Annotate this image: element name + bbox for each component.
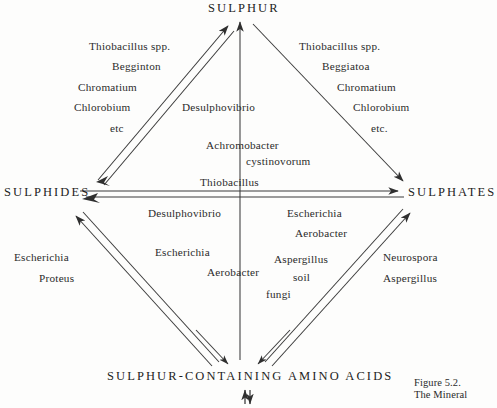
organism-label: Aerobacter (295, 227, 347, 239)
node-label-sulphides: SULPHIDES (4, 186, 90, 200)
organism-label: Achromobacter (206, 139, 279, 151)
node-label-sulphur: SULPHUR (208, 2, 280, 16)
organism-label: Begginton (112, 60, 161, 72)
edge-into-amino-left (196, 330, 228, 364)
figure-caption: Figure 5.2. The Mineral (414, 377, 467, 402)
organism-label: Desulphovibrio (148, 207, 221, 219)
arrow-double-headed-bottom (245, 390, 250, 404)
organism-label: Aspergillus (274, 253, 328, 265)
organism-label: etc. (371, 122, 388, 134)
organism-label: Aspergillus (383, 272, 437, 284)
organism-label: Thiobacillus (200, 176, 259, 188)
organism-label: soil (293, 271, 310, 283)
organism-label: Desulphovibrio (182, 101, 255, 113)
node-label-sulphates: SULPHATES (408, 186, 496, 200)
organism-label: etc (110, 122, 124, 134)
node-label-amino-acids: SULPHUR-CONTAINING AMINO ACIDS (107, 370, 393, 384)
organism-label: Thiobacillus spp. (89, 40, 170, 52)
organism-label: Chromatium (78, 81, 137, 93)
organism-label: Chromatium (337, 81, 396, 93)
sulphur-cycle-diagram (0, 0, 497, 408)
organism-label: Aerobacter (207, 266, 259, 278)
organism-label: cystinovorum (246, 155, 311, 167)
figure-caption-line1: Figure 5.2. (414, 377, 467, 389)
organism-label: Thiobacillus spp. (299, 40, 380, 52)
edge-into-amino-right (258, 330, 290, 364)
organism-label: Proteus (39, 272, 74, 284)
edge-sulphides-sulphates (80, 191, 404, 197)
organism-label: Chlorobium (74, 101, 131, 113)
organism-label: Chlorobium (353, 101, 410, 113)
figure-page: SULPHUR SULPHIDES SULPHATES SULPHUR-CONT… (0, 0, 497, 408)
organism-label: Escherichia (155, 246, 210, 258)
figure-caption-line2: The Mineral (414, 389, 467, 401)
organism-label: Beggiatoa (322, 60, 370, 72)
organism-label: fungi (266, 288, 291, 300)
edge-amino-to-sulphides (76, 212, 219, 366)
organism-label: Escherichia (287, 207, 342, 219)
organism-label: Escherichia (14, 251, 69, 263)
organism-label: Neurospora (383, 251, 438, 263)
